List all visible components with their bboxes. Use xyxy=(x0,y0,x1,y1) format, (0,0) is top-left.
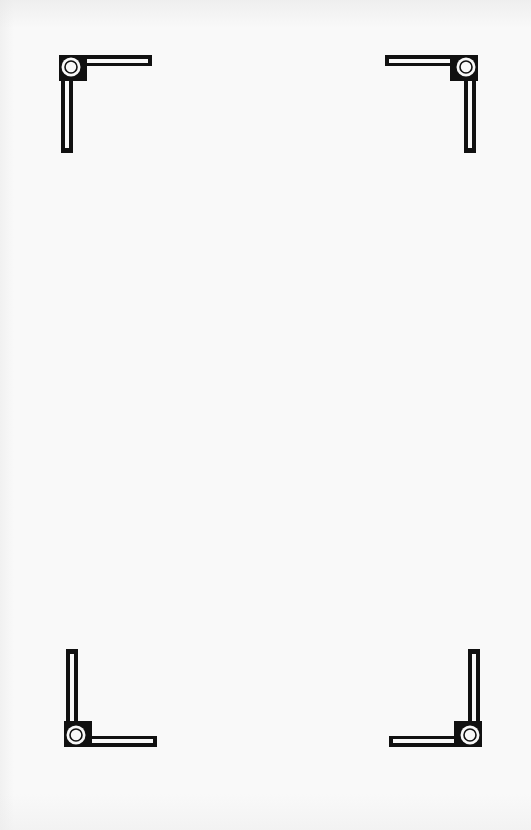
corner-ornament-bottom-right-icon xyxy=(383,648,483,748)
blank-book-page xyxy=(0,0,531,830)
corner-ornament-top-left-icon xyxy=(58,54,158,154)
corner-ornament-top-right-icon xyxy=(379,54,479,154)
corner-ornament-bottom-left-icon xyxy=(63,648,163,748)
